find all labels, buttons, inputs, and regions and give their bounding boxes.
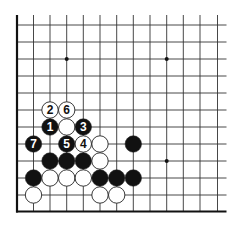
white-stone-icon xyxy=(109,187,125,203)
black-stone-icon xyxy=(109,170,125,186)
white-stone: 4 xyxy=(75,136,91,152)
black-stone: 7 xyxy=(25,136,41,152)
white-stone-icon xyxy=(92,187,108,203)
white-stone-icon xyxy=(42,170,58,186)
white-stone xyxy=(42,170,58,186)
white-stone-icon xyxy=(75,170,91,186)
white-stone xyxy=(58,119,74,135)
black-stone-icon xyxy=(42,153,58,169)
move-number-label: 7 xyxy=(30,137,37,151)
white-stone xyxy=(92,187,108,203)
black-stone-icon xyxy=(92,170,108,186)
star-point-icon xyxy=(165,57,169,61)
white-stone-icon xyxy=(58,170,74,186)
move-number-label: 6 xyxy=(63,103,70,117)
black-stone xyxy=(58,153,74,169)
white-stone: 6 xyxy=(58,102,74,118)
go-board: 2613754 xyxy=(0,0,242,228)
black-stone xyxy=(92,170,108,186)
white-stone-icon xyxy=(92,136,108,152)
black-stone xyxy=(125,170,141,186)
black-stone: 5 xyxy=(58,136,74,152)
star-point-icon xyxy=(165,159,169,163)
black-stone xyxy=(125,136,141,152)
white-stone: 2 xyxy=(42,102,58,118)
black-stone xyxy=(25,170,41,186)
white-stone xyxy=(25,187,41,203)
black-stone: 1 xyxy=(42,119,58,135)
white-stone-icon xyxy=(25,187,41,203)
white-stone-icon xyxy=(92,153,108,169)
black-stone xyxy=(42,153,58,169)
black-stone-icon xyxy=(125,170,141,186)
black-stone-icon xyxy=(58,153,74,169)
black-stone-icon xyxy=(25,170,41,186)
black-stone xyxy=(109,170,125,186)
white-stone xyxy=(75,170,91,186)
white-stone-icon xyxy=(58,119,74,135)
move-number-label: 4 xyxy=(80,137,87,151)
move-number-label: 5 xyxy=(63,137,70,151)
white-stone xyxy=(92,153,108,169)
black-stone: 3 xyxy=(75,119,91,135)
white-stone xyxy=(58,170,74,186)
move-number-label: 3 xyxy=(80,120,87,134)
move-number-label: 1 xyxy=(47,120,54,134)
star-point-icon xyxy=(65,57,69,61)
white-stone xyxy=(92,136,108,152)
black-stone-icon xyxy=(75,153,91,169)
move-number-label: 2 xyxy=(47,103,54,117)
black-stone xyxy=(75,153,91,169)
white-stone xyxy=(109,187,125,203)
black-stone-icon xyxy=(125,136,141,152)
